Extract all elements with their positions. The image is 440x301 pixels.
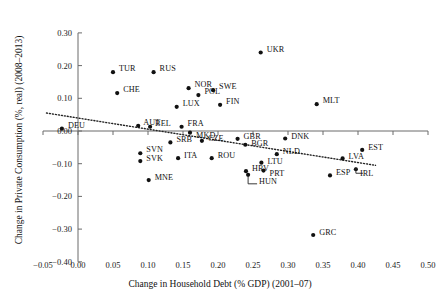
point-label-hun: HUN [259, 177, 277, 186]
point-label-hrv: HRV [252, 164, 269, 173]
data-point-rus [152, 70, 156, 74]
x-tick-label: 0.45 [376, 260, 410, 270]
point-label-irl: IRL [360, 169, 374, 178]
y-tick-label: 0.20 [38, 61, 72, 71]
data-point-grc [311, 233, 315, 237]
point-label-lux: LUX [183, 99, 200, 108]
data-point-dnk [283, 136, 287, 140]
point-label-nld: NLD [283, 147, 300, 156]
point-label-rou: ROU [218, 151, 236, 160]
data-point-hun [246, 173, 250, 177]
y-axis-title: Change in Private Consumption (%, real) … [14, 15, 25, 265]
data-point-srb [168, 140, 172, 144]
data-point-tur [111, 70, 115, 74]
point-label-fra: FRA [188, 119, 204, 128]
y-tick-label: −0.20 [38, 191, 72, 201]
data-points [60, 50, 365, 237]
data-point-gbr [236, 137, 240, 141]
data-point-che [115, 91, 119, 95]
data-point-svk [138, 159, 142, 163]
point-label-deu: DEU [68, 121, 85, 130]
x-tick-label: 0.30 [271, 260, 305, 270]
point-label-svk: SVK [146, 154, 163, 163]
data-point-fin [218, 103, 222, 107]
point-label-mlt: MLT [323, 96, 340, 105]
y-tick-label: −0.30 [38, 224, 72, 234]
data-point-mne [147, 178, 151, 182]
data-point-lux [175, 105, 179, 109]
point-label-est: EST [368, 143, 383, 152]
data-point-hrv [244, 169, 248, 173]
data-point-lva [341, 156, 345, 160]
data-point-bgr [243, 143, 247, 147]
y-tick-label: 0.00 [38, 126, 72, 136]
scatter-chart: 0.300.200.100.00−0.10−0.20−0.30−0.40−0.0… [0, 0, 440, 301]
point-label-mne: MNE [155, 173, 174, 182]
point-label-ukr: UKR [267, 45, 285, 54]
point-label-svn: SVN [146, 145, 163, 154]
point-label-bgr: BGR [251, 139, 268, 148]
y-tick-label: 0.10 [38, 93, 72, 103]
x-tick-label: 0.40 [341, 260, 375, 270]
data-point-aut [136, 124, 140, 128]
data-point-nld [275, 152, 279, 156]
data-point-fra [180, 125, 184, 129]
x-tick-label: 0.20 [201, 260, 235, 270]
point-label-lva: LVA [349, 152, 364, 161]
data-point-pol [196, 93, 200, 97]
point-label-fin: FIN [226, 97, 240, 106]
point-label-swe: SWE [219, 82, 237, 91]
data-point-nor [187, 86, 191, 90]
x-tick-label: −0.05 [26, 260, 60, 270]
point-label-bel: BEL [155, 119, 171, 128]
data-point-mlt [315, 102, 319, 106]
point-label-rus: RUS [160, 64, 176, 73]
x-tick-label: 0.50 [411, 260, 440, 270]
point-label-cze: CZE [208, 134, 224, 143]
point-label-esp: ESP [336, 168, 350, 177]
data-point-est [360, 148, 364, 152]
point-label-ltu: LTU [267, 157, 282, 166]
data-point-ita [176, 156, 180, 160]
data-point-mkd [188, 131, 192, 135]
x-tick-label: 0.10 [131, 260, 165, 270]
point-label-prt: PRT [270, 169, 285, 178]
y-tick-label: −0.10 [38, 159, 72, 169]
point-label-che: CHE [123, 85, 140, 94]
point-label-ita: ITA [184, 151, 197, 160]
x-tick-label: 0.25 [236, 260, 270, 270]
data-point-rou [210, 156, 214, 160]
x-tick-label: 0.05 [96, 260, 130, 270]
data-point-esp [328, 173, 332, 177]
point-label-tur: TUR [119, 64, 136, 73]
leader-line-hun [248, 177, 257, 184]
data-point-svn [138, 151, 142, 155]
point-label-pol: POL [204, 87, 220, 96]
point-label-srb: SRB [176, 135, 192, 144]
data-point-ukr [259, 50, 263, 54]
x-tick-label: 0.35 [306, 260, 340, 270]
x-axis-title: Change in Household Debt (% GDP) (2001–0… [0, 279, 440, 289]
point-label-grc: GRC [319, 228, 336, 237]
point-label-dnk: DNK [291, 132, 309, 141]
y-tick-label: 0.30 [38, 28, 72, 38]
x-tick-label: 0.15 [166, 260, 200, 270]
x-tick-label: 0.00 [61, 260, 95, 270]
